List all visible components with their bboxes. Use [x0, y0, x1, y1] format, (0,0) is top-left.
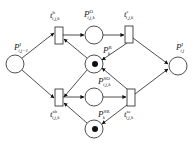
place-p-out	[169, 57, 187, 75]
label-t-sb: tsbi,j,k	[50, 109, 60, 121]
arc-psr-tsb	[64, 103, 87, 123]
label-t-e: tei,j,k	[124, 9, 134, 21]
arc-pr-tsb	[64, 70, 87, 97]
arcs	[22, 33, 168, 124]
place-p-in	[6, 55, 24, 73]
arc-te-pout	[133, 38, 168, 64]
arc-pin-tb	[22, 33, 54, 58]
label-p-sr: PSRk	[97, 109, 110, 120]
token-p-r	[92, 61, 98, 67]
arc-pin-tsb	[22, 70, 54, 98]
arc-tse-pout	[135, 69, 168, 94]
transition-t-b	[55, 27, 63, 44]
place-p-o	[85, 26, 103, 44]
transition-t-sb	[55, 89, 63, 106]
label-p-out: PIi,j	[175, 42, 185, 54]
label-p-so: PSOi,j,k	[97, 76, 111, 88]
transition-t-e	[125, 26, 133, 43]
label-p-in: PIi,j−1	[13, 42, 28, 54]
label-t-b: tbi,j,k	[50, 10, 60, 22]
transition-t-se	[127, 89, 135, 106]
arc-pr-tb	[64, 39, 87, 58]
label-p-o: POi,j,k	[83, 9, 95, 21]
place-p-so	[85, 88, 103, 106]
label-t-se: tsei,j,k	[124, 109, 134, 121]
token-p-sr	[92, 126, 98, 132]
petri-net-diagram: PIi,j−1 POi,j,k PRk PSOi,j,k PSRk PIi,j …	[0, 0, 194, 145]
